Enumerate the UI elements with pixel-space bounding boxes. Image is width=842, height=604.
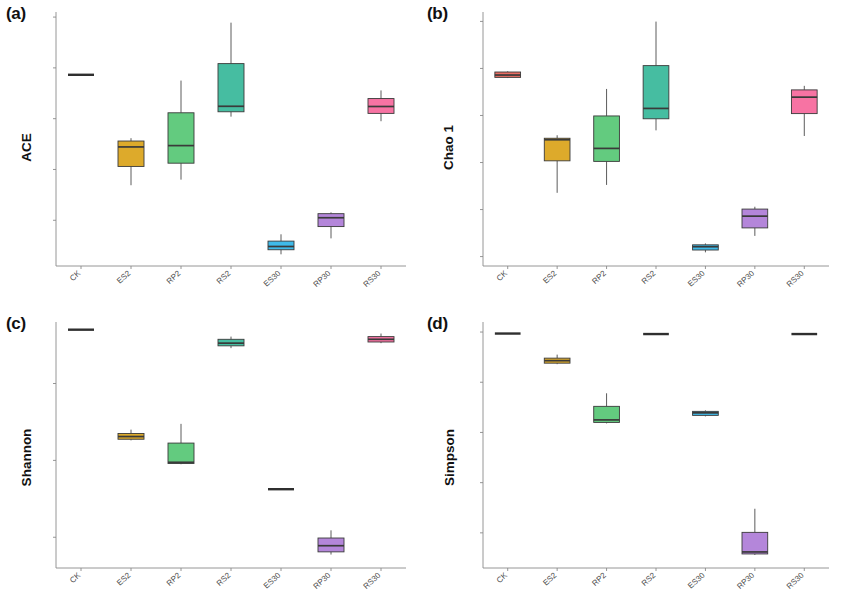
panel-c-svg: 468CKES2RP2RS2ES30RP30RS30 bbox=[52, 318, 412, 604]
panel-a-plot: 20002500300035004000CKES2RP2RS2ES30RP30R… bbox=[52, 8, 412, 310]
x-tick-label-rs30: RS30 bbox=[361, 268, 382, 288]
x-tick-label-rs2: RS2 bbox=[215, 268, 233, 285]
box-rect bbox=[791, 90, 817, 114]
panel-c-plot: 468CKES2RP2RS2ES30RP30RS30 bbox=[52, 318, 412, 604]
box-group-es30 bbox=[693, 410, 719, 416]
x-tick-label-rs2: RS2 bbox=[640, 570, 658, 587]
box-group-rs2 bbox=[643, 22, 669, 131]
box-rect bbox=[118, 141, 144, 166]
box-group-rs30 bbox=[368, 90, 394, 121]
box-group-rp30 bbox=[742, 207, 768, 236]
x-tick-label-ck: CK bbox=[495, 268, 510, 283]
box-group-rs2 bbox=[218, 337, 244, 349]
panel-a-label: (a) bbox=[6, 4, 26, 24]
box-group-rp2 bbox=[594, 393, 620, 423]
x-tick-label-ck: CK bbox=[495, 570, 510, 585]
box-group-rp30 bbox=[318, 530, 344, 554]
box-group-es2 bbox=[544, 135, 570, 193]
x-tick-label-rp2: RP2 bbox=[590, 268, 608, 285]
box-group-rp2 bbox=[594, 89, 620, 185]
panel-d-plot: 0.60.70.80.91.0CKES2RP2RS2ES30RP30RS30 bbox=[479, 318, 835, 604]
x-tick-label-ck: CK bbox=[68, 268, 83, 283]
box-group-rp2 bbox=[168, 424, 194, 464]
x-tick-label-rp2: RP2 bbox=[165, 570, 183, 587]
boxplot-figure: (a) ACE 20002500300035004000CKES2RP2RS2E… bbox=[0, 0, 842, 604]
axis-spine bbox=[483, 322, 829, 568]
box-rect bbox=[742, 532, 768, 554]
x-tick-label-rs2: RS2 bbox=[215, 570, 233, 587]
box-rect bbox=[544, 138, 570, 161]
x-tick-label-rp30: RP30 bbox=[311, 268, 332, 288]
box-rect bbox=[643, 66, 669, 119]
panel-c-ylabel: Shannon bbox=[19, 418, 34, 498]
x-tick-label-rs30: RS30 bbox=[361, 570, 382, 590]
box-rect bbox=[268, 241, 294, 250]
box-rect bbox=[218, 64, 244, 112]
box-group-rs30 bbox=[368, 334, 394, 344]
axis-spine bbox=[56, 322, 406, 568]
box-rect bbox=[594, 116, 620, 161]
x-tick-label-ck: CK bbox=[68, 570, 83, 585]
x-tick-label-rs2: RS2 bbox=[640, 268, 658, 285]
box-group-es2 bbox=[118, 430, 144, 441]
box-group-rp2 bbox=[168, 81, 194, 180]
panel-a: (a) ACE 20002500300035004000CKES2RP2RS2E… bbox=[0, 0, 421, 302]
panel-b-svg: 150020002500300035004000CKES2RP2RS2ES30R… bbox=[479, 8, 835, 310]
box-group-rs2 bbox=[218, 23, 244, 117]
panel-a-svg: 20002500300035004000CKES2RP2RS2ES30RP30R… bbox=[52, 8, 412, 310]
box-group-es2 bbox=[544, 355, 570, 365]
panel-d-label: (d) bbox=[427, 314, 448, 334]
panel-c-label: (c) bbox=[6, 314, 26, 334]
box-group-es2 bbox=[118, 138, 144, 185]
box-rect bbox=[742, 209, 768, 228]
x-tick-label-es30: ES30 bbox=[262, 268, 283, 288]
x-tick-label-rp2: RP2 bbox=[590, 570, 608, 587]
box-rect bbox=[168, 113, 194, 163]
x-tick-label-es30: ES30 bbox=[686, 268, 707, 288]
box-group-rp30 bbox=[742, 509, 768, 555]
x-tick-label-rp30: RP30 bbox=[735, 268, 756, 288]
panel-d-svg: 0.60.70.80.91.0CKES2RP2RS2ES30RP30RS30 bbox=[479, 318, 835, 604]
x-tick-label-es2: ES2 bbox=[115, 570, 133, 587]
panel-b-plot: 150020002500300035004000CKES2RP2RS2ES30R… bbox=[479, 8, 835, 310]
box-group-es30 bbox=[693, 243, 719, 252]
x-tick-label-es2: ES2 bbox=[541, 570, 559, 587]
x-tick-label-rs30: RS30 bbox=[785, 268, 806, 288]
box-group-ck bbox=[495, 71, 521, 78]
panel-b-ylabel: Chao 1 bbox=[441, 113, 456, 183]
box-group-rp30 bbox=[318, 212, 344, 238]
x-tick-label-es30: ES30 bbox=[262, 570, 283, 590]
x-tick-label-es2: ES2 bbox=[115, 268, 133, 285]
x-tick-label-es30: ES30 bbox=[686, 570, 707, 590]
panel-d-ylabel: Simpson bbox=[442, 418, 457, 498]
panel-b: (b) Chao 1 150020002500300035004000CKES2… bbox=[421, 0, 842, 302]
box-rect bbox=[168, 443, 194, 463]
x-tick-label-rp30: RP30 bbox=[311, 570, 332, 590]
panel-c: (c) Shannon 468CKES2RP2RS2ES30RP30RS30 bbox=[0, 302, 421, 604]
box-group-rs30 bbox=[791, 86, 817, 136]
x-tick-label-es2: ES2 bbox=[541, 268, 559, 285]
panel-a-ylabel: ACE bbox=[19, 118, 34, 178]
box-group-es30 bbox=[268, 234, 294, 254]
x-tick-label-rs30: RS30 bbox=[785, 570, 806, 590]
box-rect bbox=[318, 214, 344, 227]
x-tick-label-rp2: RP2 bbox=[165, 268, 183, 285]
panel-b-label: (b) bbox=[427, 4, 448, 24]
x-tick-label-rp30: RP30 bbox=[735, 570, 756, 590]
panel-d: (d) Simpson 0.60.70.80.91.0CKES2RP2RS2ES… bbox=[421, 302, 842, 604]
